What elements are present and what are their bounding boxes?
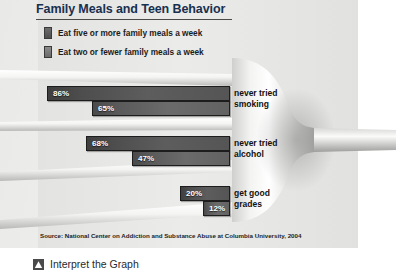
- bar-value-label: 47%: [138, 154, 154, 163]
- bar-alcohol-five-or-more: 68%: [86, 136, 230, 151]
- source-citation: Source: National Center on Addiction and…: [40, 232, 301, 239]
- bar-value-label: 68%: [92, 139, 108, 148]
- caption: Interpret the Graph: [33, 258, 139, 270]
- triangle-icon: [33, 259, 44, 270]
- bar-value-label: 20%: [186, 189, 202, 198]
- bar-value-label: 12%: [209, 204, 225, 213]
- category-label-line2: alcohol: [234, 149, 264, 159]
- category-label-alcohol: never tried alcohol: [234, 138, 277, 159]
- category-label-line1: never tried: [234, 138, 277, 148]
- bar-groups: 86% 65% never tried smoking 68% 47% neve…: [0, 0, 358, 248]
- bar-smoking-five-or-more: 86%: [47, 86, 230, 101]
- bar-grades-five-or-more: 20%: [180, 186, 230, 201]
- category-label-line1: get good: [234, 188, 270, 198]
- bar-value-label: 86%: [53, 89, 69, 98]
- bar-grades-two-or-fewer: 12%: [203, 201, 230, 216]
- category-label-grades: get good grades: [234, 188, 270, 209]
- category-label-line2: grades: [234, 199, 262, 209]
- category-label-line2: smoking: [234, 99, 269, 109]
- infographic-root: Family Meals and Teen Behavior Eat five …: [0, 0, 396, 276]
- caption-text: Interpret the Graph: [50, 258, 139, 270]
- bar-alcohol-two-or-fewer: 47%: [132, 151, 230, 166]
- category-label-line1: never tried: [234, 88, 277, 98]
- bar-value-label: 65%: [98, 104, 114, 113]
- category-label-smoking: never tried smoking: [234, 88, 277, 109]
- bar-smoking-two-or-fewer: 65%: [92, 101, 230, 116]
